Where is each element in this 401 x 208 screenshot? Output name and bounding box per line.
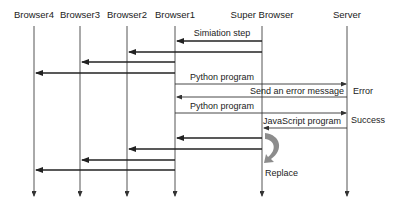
participant-browser4: Browser4 xyxy=(14,9,54,20)
participant-browser3: Browser3 xyxy=(60,9,100,20)
message-label-python-program-1: Python program xyxy=(190,72,254,82)
annotation-success: Success xyxy=(351,115,386,125)
sequence-diagram: Browser4 Browser3 Browser2 Browser1 Supe… xyxy=(0,0,401,208)
participant-browser1: Browser1 xyxy=(155,9,195,20)
replace-curved-arrow-icon xyxy=(264,133,279,163)
participant-server: Server xyxy=(333,9,361,20)
message-label-send-error: Send an error message xyxy=(250,86,344,96)
annotation-replace: Replace xyxy=(265,168,298,178)
annotation-error: Error xyxy=(353,86,373,96)
participant-browser2: Browser2 xyxy=(107,9,147,20)
participant-super-browser: Super Browser xyxy=(231,9,294,20)
message-label-python-program-2: Python program xyxy=(190,101,254,111)
message-label-simulation-step: Simiation step xyxy=(194,28,251,38)
message-label-javascript-program: JavaScript program xyxy=(263,116,341,126)
